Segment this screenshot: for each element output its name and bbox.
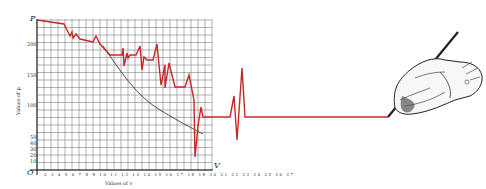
chart-svg xyxy=(0,0,486,189)
x-axis-title: Values of v xyxy=(105,180,132,186)
grid xyxy=(37,19,212,170)
x-tick-labels: 2 3 4 5 6 7 8 9 10 11 12 13 14 15 16 17 … xyxy=(44,172,295,177)
illustration: P V O 200 150 100 50 40 30 20 10 Values … xyxy=(0,0,486,189)
y-tick-200: 200 xyxy=(27,41,37,47)
v-axis-symbol: V xyxy=(214,161,220,170)
hand-with-pen-icon xyxy=(388,32,482,117)
y-tick-10: 10 xyxy=(30,158,36,164)
y-axis-title: Values of p xyxy=(15,87,21,115)
y-tick-100: 100 xyxy=(27,102,37,108)
p-axis-symbol: P xyxy=(30,14,35,23)
origin-label: O xyxy=(27,168,34,177)
y-tick-150: 150 xyxy=(27,72,37,78)
measured-line xyxy=(37,20,388,157)
